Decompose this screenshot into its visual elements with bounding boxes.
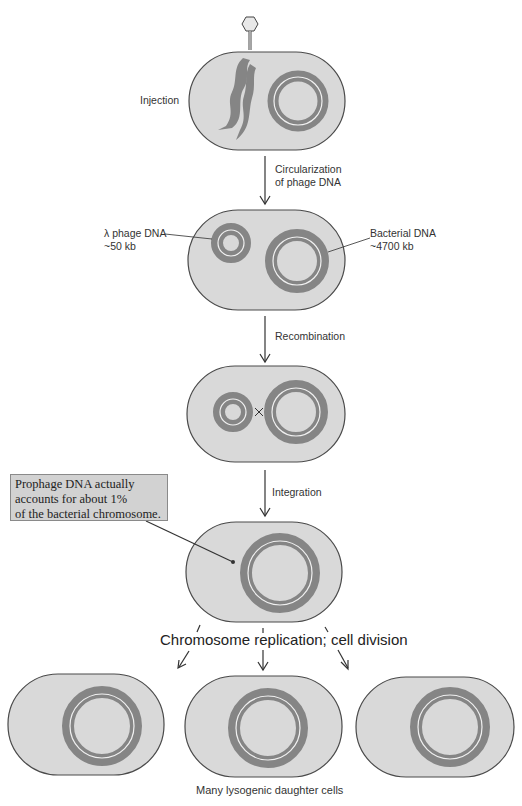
cell-injection: [189, 52, 345, 150]
step-circularization-label: Circularization of phage DNA: [275, 163, 342, 189]
bacterial-dna-label: Bacterial DNA ~4700 kb: [370, 227, 436, 253]
step-integration-label: Integration: [272, 486, 322, 499]
phage-icon: [242, 17, 258, 50]
daughter-cell-3: [356, 677, 514, 777]
step-replication-label: Chromosome replication; cell division: [160, 633, 408, 646]
lysogeny-diagram: [0, 0, 522, 806]
cell-integrated: [146, 521, 342, 622]
step-recombination-label: Recombination: [275, 330, 345, 343]
cell-circularized: [165, 210, 370, 310]
daughter-cell-2: [185, 676, 342, 777]
daughter-cell-1: [8, 674, 164, 775]
step-injection-label: Injection: [140, 94, 179, 107]
cell-recombination: [187, 366, 345, 462]
prophage-callout: Prophage DNA actually accounts for about…: [10, 474, 168, 521]
result-label: Many lysogenic daughter cells: [196, 784, 343, 797]
phage-dna-label: λ phage DNA ~50 kb: [104, 227, 166, 253]
